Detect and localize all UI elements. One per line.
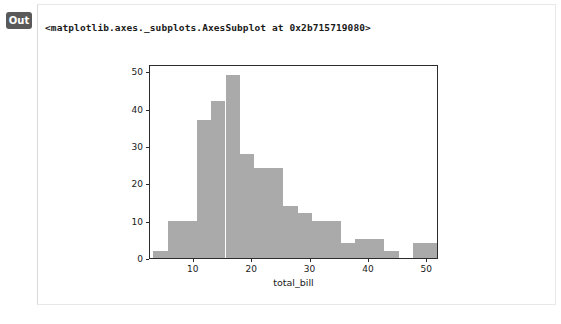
- y-tick-label: 40: [123, 105, 143, 115]
- histogram-bar: [168, 221, 182, 258]
- histogram-bar: [240, 154, 254, 258]
- histogram-bar: [269, 168, 283, 258]
- histogram-bars: [150, 66, 437, 258]
- histogram-bar: [197, 120, 211, 258]
- histogram-bar: [384, 251, 398, 258]
- notebook-output-cell: Out <matplotlib.axes._subplots.AxesSubpl…: [0, 0, 561, 324]
- x-tick-label: 50: [421, 264, 432, 274]
- x-tick-mark: [251, 259, 252, 262]
- y-tick-label: 20: [123, 179, 143, 189]
- y-tick-mark: [146, 184, 149, 185]
- y-tick-mark: [146, 72, 149, 73]
- histogram-bar: [226, 75, 240, 258]
- histogram-bar: [327, 221, 341, 258]
- output-panel: <matplotlib.axes._subplots.AxesSubplot a…: [37, 4, 556, 305]
- axes-frame: [149, 65, 438, 259]
- histogram-bar: [254, 168, 268, 258]
- histogram-bar: [355, 239, 369, 258]
- y-tick-label: 10: [123, 217, 143, 227]
- y-tick-label: 50: [123, 67, 143, 77]
- x-tick-mark: [310, 259, 311, 262]
- x-axis-label: total_bill: [149, 277, 438, 288]
- x-tick-label: 40: [362, 264, 373, 274]
- x-tick-label: 20: [245, 264, 256, 274]
- object-repr-text: <matplotlib.axes._subplots.AxesSubplot a…: [45, 22, 371, 33]
- y-tick-mark: [146, 110, 149, 111]
- output-prompt-label: Out: [6, 12, 32, 29]
- histogram-bar: [370, 239, 384, 258]
- y-tick-label: 30: [123, 142, 143, 152]
- y-tick-label: 0: [123, 254, 143, 264]
- y-tick-mark: [146, 222, 149, 223]
- histogram-bar: [341, 243, 355, 258]
- histogram-bar: [312, 221, 326, 258]
- histogram-bar: [153, 251, 167, 258]
- x-tick-mark: [193, 259, 194, 262]
- y-tick-mark: [146, 147, 149, 148]
- matplotlib-figure: 1020304050 01020304050 total_bill: [108, 55, 448, 293]
- x-tick-mark: [426, 259, 427, 262]
- histogram-bar: [283, 206, 297, 258]
- y-tick-mark: [146, 259, 149, 260]
- histogram-bar: [298, 213, 312, 258]
- histogram-bar: [413, 243, 427, 258]
- histogram-bar: [428, 243, 438, 258]
- x-tick-label: 30: [304, 264, 315, 274]
- histogram-bar: [211, 101, 225, 258]
- x-tick-label: 10: [187, 264, 198, 274]
- x-tick-mark: [368, 259, 369, 262]
- histogram-bar: [182, 221, 196, 258]
